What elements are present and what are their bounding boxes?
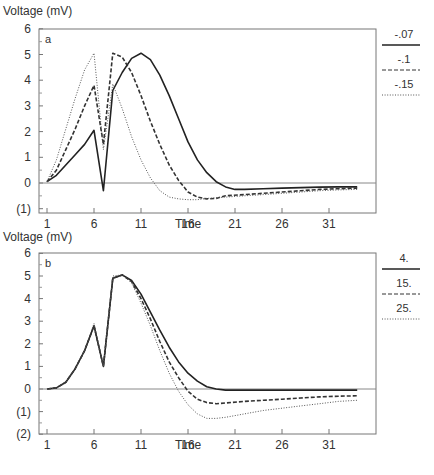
y-tick-label: 5 bbox=[24, 269, 31, 283]
legend-label: -.1 bbox=[398, 53, 411, 65]
series-line-solid bbox=[47, 53, 357, 191]
chart-panel-b: Voltage (mV)b(2)(1)0123456161116212631Ti… bbox=[3, 230, 420, 452]
plot-frame bbox=[39, 29, 376, 213]
series-line-dashed bbox=[47, 53, 357, 199]
figure: Voltage (mV)a(1)0123456161116212631Time-… bbox=[0, 0, 434, 475]
y-tick-label: 1 bbox=[24, 150, 31, 164]
x-axis-label: Time bbox=[175, 217, 202, 231]
x-tick-label: 26 bbox=[275, 438, 289, 452]
y-tick-label: 3 bbox=[24, 99, 31, 113]
y-tick-label: 6 bbox=[24, 22, 31, 36]
x-axis-label: Time bbox=[175, 438, 202, 452]
x-tick-label: 1 bbox=[44, 438, 51, 452]
series-line-solid bbox=[47, 275, 357, 390]
x-tick-label: 1 bbox=[44, 217, 51, 231]
legend-label: 25. bbox=[396, 302, 411, 314]
y-tick-label: 1 bbox=[24, 359, 31, 373]
x-tick-label: 31 bbox=[322, 217, 336, 231]
series-line-dotted bbox=[47, 53, 357, 200]
y-tick-label: 3 bbox=[24, 314, 31, 328]
legend-label: 4. bbox=[399, 252, 408, 264]
y-tick-label: 0 bbox=[24, 176, 31, 190]
series-line-dotted bbox=[47, 275, 357, 419]
legend-label: 15. bbox=[396, 277, 411, 289]
x-tick-label: 21 bbox=[228, 438, 242, 452]
y-axis-label: Voltage (mV) bbox=[3, 230, 72, 244]
y-tick-label: 0 bbox=[24, 382, 31, 396]
y-tick-label: 6 bbox=[24, 246, 31, 260]
y-axis-label: Voltage (mV) bbox=[3, 4, 72, 18]
x-tick-label: 6 bbox=[91, 438, 98, 452]
x-tick-label: 11 bbox=[135, 438, 148, 452]
y-tick-label: (2) bbox=[16, 427, 31, 441]
x-tick-label: 26 bbox=[275, 217, 289, 231]
y-tick-label: (1) bbox=[16, 202, 31, 216]
panel-label: b bbox=[45, 257, 51, 269]
x-tick-label: 11 bbox=[135, 217, 148, 231]
x-tick-label: 31 bbox=[322, 438, 336, 452]
y-tick-label: 2 bbox=[24, 125, 31, 139]
y-tick-label: 2 bbox=[24, 337, 31, 351]
x-tick-label: 6 bbox=[91, 217, 98, 231]
y-tick-label: 5 bbox=[24, 48, 31, 62]
chart-panel-a: Voltage (mV)a(1)0123456161116212631Time-… bbox=[3, 4, 420, 231]
legend-label: -.15 bbox=[395, 78, 414, 90]
y-tick-label: 4 bbox=[24, 292, 31, 306]
legend-label: -.07 bbox=[395, 28, 414, 40]
plot-frame bbox=[39, 253, 376, 434]
y-tick-label: 4 bbox=[24, 73, 31, 87]
x-tick-label: 21 bbox=[228, 217, 242, 231]
y-tick-label: (1) bbox=[16, 405, 31, 419]
panel-label: a bbox=[45, 33, 52, 45]
